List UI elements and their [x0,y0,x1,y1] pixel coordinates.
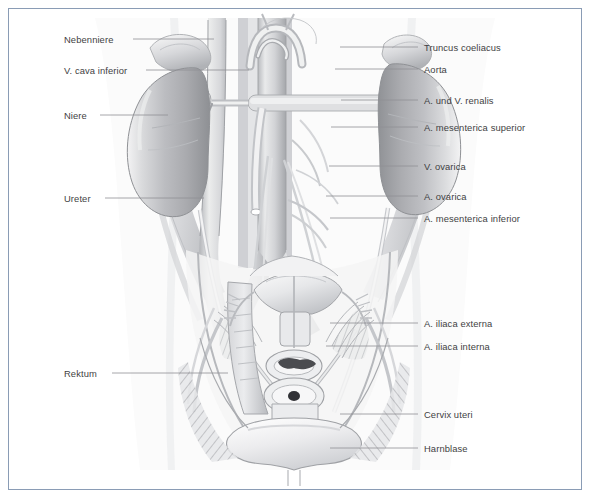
label-ureter: Ureter [64,193,91,204]
urinary-bladder [227,418,362,486]
label-harnblase: Harnblase [424,443,468,454]
label-a-iliaca-interna: A. iliaca interna [424,341,490,352]
label-rektum: Rektum [64,368,97,379]
label-aorta: Aorta [424,64,447,75]
label-v-cava-inferior: V. cava inferior [64,65,127,76]
label-a-mesenterica-superior: A. mesenterica superior [424,122,525,133]
label-niere: Niere [64,110,87,121]
label-v-ovarica: V. ovarica [424,161,466,172]
label-cervix-uteri: Cervix uteri [424,409,473,420]
figure-page: NebenniereV. cava inferiorNiereUreterRek… [0,0,590,498]
label-truncus-coeliacus: Truncus coeliacus [424,42,501,53]
label-a-iliaca-externa: A. iliaca externa [424,318,492,329]
label-nebenniere: Nebenniere [64,34,113,45]
label-a-und-v-renalis: A. und V. renalis [424,95,494,106]
label-a-ovarica: A. ovarica [424,191,467,202]
label-a-mesenterica-inferior: A. mesenterica inferior [424,213,520,224]
